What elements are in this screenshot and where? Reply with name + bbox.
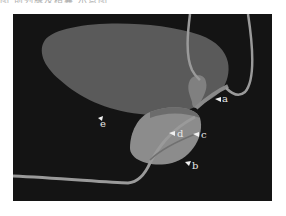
label-d: d [177, 128, 184, 139]
anatomy-figure: a b c d e [13, 14, 272, 201]
label-e: e [100, 118, 106, 129]
caption-fragment: 图 前列腺及精囊 示意图 [0, 0, 180, 3]
anatomy-illustration: a b c d e [13, 14, 272, 201]
label-a: a [222, 93, 228, 104]
label-b: b [192, 160, 198, 171]
label-c: c [201, 129, 207, 140]
